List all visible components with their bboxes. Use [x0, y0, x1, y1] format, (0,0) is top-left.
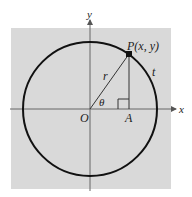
angle-label: θ — [99, 96, 105, 108]
origin-label: O — [80, 111, 89, 125]
x-axis-label: x — [178, 103, 184, 115]
y-axis-label: y — [86, 8, 92, 20]
point-label: P(x, y) — [126, 39, 159, 53]
unit-circle-diagram: y x P(x, y) r θ O A t — [0, 0, 192, 197]
radius-label: r — [103, 69, 108, 83]
foot-label: A — [124, 111, 133, 125]
